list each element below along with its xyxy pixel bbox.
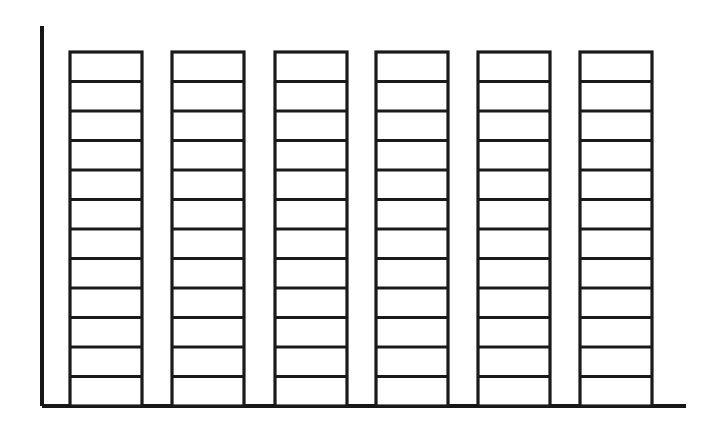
bar-column	[172, 52, 244, 406]
bar-column	[478, 52, 550, 406]
bar-column	[70, 52, 142, 406]
bar-chart-figure	[0, 0, 715, 433]
bar-column	[275, 52, 347, 406]
bar-series-group	[70, 52, 652, 406]
bar-column	[580, 52, 652, 406]
bar-column	[376, 52, 448, 406]
chart-plot-area	[0, 0, 715, 433]
